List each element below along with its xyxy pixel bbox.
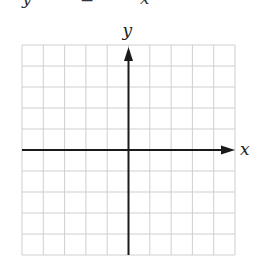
y-axis-label: y bbox=[122, 20, 133, 40]
x-axis-arrow-icon bbox=[221, 146, 235, 155]
clipped-text-1: y bbox=[21, 0, 32, 8]
clipped-top-text: y = x bbox=[21, 0, 150, 8]
y-axis-arrow-icon bbox=[124, 47, 133, 61]
clipped-text-3: x bbox=[140, 0, 150, 8]
x-axis-label: x bbox=[240, 139, 250, 159]
axes: x y bbox=[22, 20, 250, 255]
clipped-text-2: = bbox=[80, 0, 94, 8]
coordinate-grid-figure: y = x x y bbox=[0, 0, 261, 262]
